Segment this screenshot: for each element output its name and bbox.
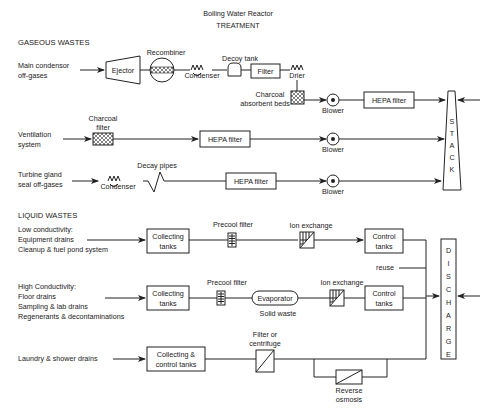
precool-2-label: Precool filter [207,278,248,287]
blower-1-label: Blower [322,106,345,115]
high-source-line1: High Conductivity: [18,282,76,291]
control-2-line2: tanks [375,299,393,308]
discharge-letter-g: G [446,337,452,346]
charcoal-beds-line1: Charcoal [256,90,285,99]
precool-1-label: Precool filter [213,220,254,229]
discharge-letter-c: C [446,285,451,294]
title-line2: TREATMENT [216,21,260,30]
collecting-tanks-1: Collecting tanks [147,229,189,253]
control-2-line1: Control [372,289,396,298]
control-tanks-2: Control tanks [365,286,403,310]
discharge-letter-i: I [448,259,450,268]
stack-letter-c: C [449,153,454,162]
collecting-3-line2: control tanks [156,360,197,369]
discharge-letter-s: S [446,272,451,281]
low-source-line2: Equipment drains [18,235,74,244]
condenser-1-label: Condenser [184,71,220,80]
decay-pipes: Decay pipes [137,161,233,192]
stack-letter-t: T [450,129,455,138]
main-source-line2: off-gases [18,71,48,80]
stack-letter-s: S [450,117,455,126]
charcoal-filter-line1: Charcoal [89,114,118,123]
collecting-1-line2: tanks [159,242,177,251]
high-source-line3: Sampling & lab drains [18,302,88,311]
collecting-2-line2: tanks [159,299,177,308]
collecting-2-line1: Collecting [152,289,184,298]
recombiner-label: Recombiner [147,48,186,57]
hepa-filter-2: HEPA filter [200,131,250,147]
bwr-treatment-diagram: Boiling Water Reactor TREATMENT GASEOUS … [0,0,498,413]
blower-2-label: Blower [322,145,345,154]
filter-label: Filter [258,67,275,76]
filter-centrifuge-line1: Filter or [253,330,278,339]
ion-1-label: Ion exchange [289,221,332,230]
hepa-2-label: HEPA filter [208,135,243,144]
ventilation-line1: Ventilation [18,130,51,139]
discharge-letter-h: H [446,298,451,307]
charcoal-filter-line2: filter [96,123,110,132]
evaporator: Evaporator Solid waste [252,291,298,318]
solid-waste-label: Solid waste [260,309,297,318]
condenser-2-label: Condenser [100,182,136,191]
low-source-line1: Low conductivity: [18,225,73,234]
precool-filter-2: Precool filter [207,278,248,305]
turbine-line1: Turbine gland [18,170,62,179]
control-1-line1: Control [372,232,396,241]
ion-exchange-2: Ion exchange [320,278,363,306]
liquid-heading: LIQUID WASTES [18,211,77,220]
ejector: Ejector [106,56,140,84]
laundry-source: Laundry & shower drains [18,354,98,363]
filter-or-centrifuge: Filter or centrifuge [249,330,281,372]
hepa-filter-3: HEPA filter [226,173,276,189]
blower-3-label: Blower [322,187,345,196]
evaporator-label: Evaporator [257,294,293,303]
discharge-letter-e: E [446,350,451,359]
reverse-osmosis-line1: Reverse [336,386,363,395]
blower-3: Blower [322,175,345,196]
stack: S T A C K [443,91,461,190]
high-source-line4: Regenerants & decontaminations [18,312,125,321]
blower-2: Blower [322,133,345,154]
discharge-letter-a: A [446,311,451,320]
reuse-label: reuse [376,263,394,272]
recombiner: Recombiner [147,48,186,82]
filter-centrifuge-line2: centrifuge [249,339,281,348]
discharge-letter-d: D [446,246,451,255]
reverse-osmosis-line2: osmosis [336,395,363,404]
stack-letter-k: K [450,165,455,174]
collecting-1-line1: Collecting [152,232,184,241]
charcoal-absorbent-beds: Charcoal absorbent beds [240,90,304,108]
hepa-3-label: HEPA filter [234,177,269,186]
charcoal-beds-line2: absorbent beds [240,99,290,108]
high-source-line2: Floor drains [18,292,56,301]
blower-1: Blower [322,94,345,115]
drier-label: Drier [289,71,305,80]
ion-2-label: Ion exchange [320,278,363,287]
turbine-line2: seal off-gases [18,180,63,189]
hepa-1-label: HEPA filter [372,96,407,105]
low-source-line3: Cleanup & fuel pond system [18,245,108,254]
ion-exchange-1: Ion exchange [289,221,332,248]
ejector-label: Ejector [112,66,135,75]
filter-box: Filter [251,64,280,78]
discharge: D I S C H A R G E [441,239,456,359]
decay-pipes-label: Decay pipes [137,161,177,170]
collecting-tanks-2: Collecting tanks [147,286,189,310]
collecting-control-tanks: Collecting & control tanks [147,347,205,371]
decoy-tank-label: Decoy tank [222,54,258,63]
condenser-1: Condenser [184,65,220,80]
gaseous-heading: GASEOUS WASTES [18,38,89,47]
title-line1: Boiling Water Reactor [203,9,273,18]
discharge-letter-r: R [446,324,451,333]
condenser-2: Condenser [100,176,136,191]
precool-filter-1: Precool filter [213,220,254,247]
control-tanks-1: Control tanks [365,229,403,253]
drier: Drier [289,65,305,80]
charcoal-filter: Charcoal filter [89,114,118,145]
main-source-line1: Main condensor [18,61,70,70]
stack-letter-a: A [450,141,455,150]
hepa-filter-1: HEPA filter [364,92,414,108]
reverse-osmosis: Reverse osmosis [336,370,363,404]
collecting-3-line1: Collecting & [157,350,196,359]
ventilation-line2: system [18,140,41,149]
